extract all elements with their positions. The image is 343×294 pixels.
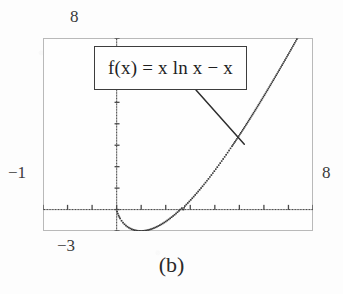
figure-panel-b: 8 −1 8 −3 f(x) = x ln x − x (b)	[0, 0, 343, 294]
figure-caption: (b)	[0, 252, 343, 278]
axis-range-label-ymax: 8	[70, 8, 79, 25]
axis-range-label-ymin: −1	[8, 164, 26, 181]
formula-callout-box: f(x) = x ln x − x	[94, 46, 247, 90]
callout-leader-line	[196, 90, 244, 144]
formula-text: f(x) = x ln x − x	[108, 57, 233, 79]
axis-range-label-xmax: 8	[322, 164, 331, 181]
